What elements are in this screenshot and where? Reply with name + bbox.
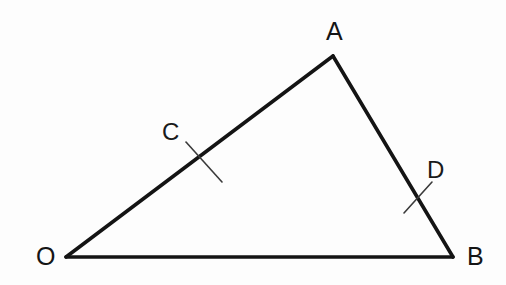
point-label-c: C — [162, 120, 179, 144]
vertex-label-a: A — [326, 19, 343, 44]
vertex-label-o: O — [36, 244, 55, 269]
triangle-figure — [0, 0, 506, 285]
tick-mark-d — [404, 182, 432, 213]
diagram-canvas: A O B C D — [0, 0, 506, 285]
vertex-label-b: B — [467, 244, 484, 269]
point-label-d: D — [427, 158, 444, 182]
